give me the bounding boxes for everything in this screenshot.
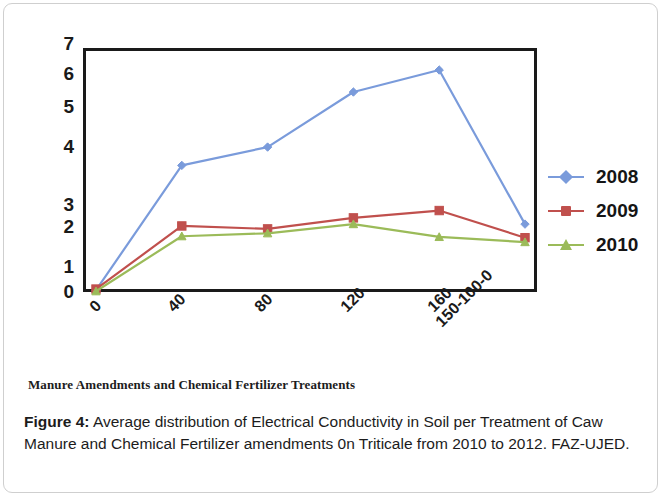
figure-page: 7 6 5 4 3 2 1 0 0 40 80 120 160 150-100-… — [0, 0, 661, 496]
legend-marker-2009-icon — [548, 202, 584, 220]
legend-label-2009: 2009 — [596, 200, 638, 222]
x-tick-120: 120 — [337, 284, 369, 316]
legend-item-2009[interactable]: 2009 — [548, 194, 658, 228]
x-tick-40: 40 — [164, 290, 189, 315]
legend-label-2008: 2008 — [596, 166, 638, 188]
legend-item-2010[interactable]: 2010 — [548, 228, 658, 262]
legend-item-2008[interactable]: 2008 — [548, 160, 658, 194]
legend-marker-2010-icon — [548, 236, 584, 254]
chart-figure: 7 6 5 4 3 2 1 0 0 40 80 120 160 150-100-… — [0, 0, 661, 400]
legend-marker-2008-icon — [548, 168, 584, 186]
figure-caption-label: Figure 4 — [24, 413, 84, 430]
legend-label-2010: 2010 — [596, 234, 638, 256]
chart-legend: 2008 2009 2010 — [548, 160, 658, 262]
x-tick-0: 0 — [86, 297, 105, 316]
figure-caption: Figure 4: Average distribution of Electr… — [24, 411, 644, 455]
figure-caption-text: Average distribution of Electrical Condu… — [24, 413, 630, 452]
x-axis-title: Manure Amendments and Chemical Fertilize… — [28, 377, 355, 393]
x-tick-80: 80 — [251, 290, 276, 315]
